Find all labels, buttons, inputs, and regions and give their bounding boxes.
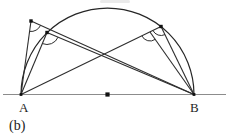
segment-A-Q1 [21,27,161,95]
point-dot-A [20,93,23,96]
point-dot-Q1 [159,25,162,28]
point-label-b: B [190,101,199,114]
point-dot-P2 [45,31,48,34]
point-dot-P1 [29,19,32,22]
geometry-figure-panel: A B (b) [0,0,229,140]
point-dot-B [193,93,196,96]
angle-mark-P1 [30,25,41,31]
point-dot-O [105,92,109,96]
semicircle-diagram [0,0,229,140]
segment-B-P1 [31,21,194,95]
point-label-a: A [19,101,28,114]
segment-B-Q1 [161,27,194,95]
figure-caption: (b) [9,118,25,134]
